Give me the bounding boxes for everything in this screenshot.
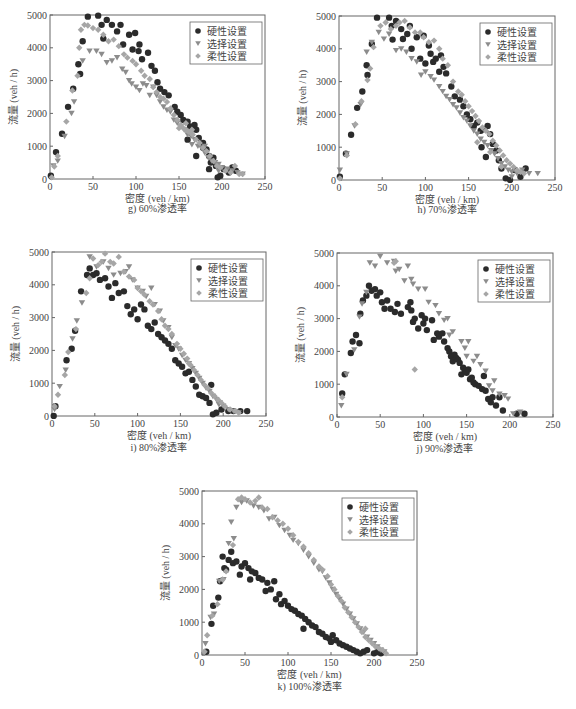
chart-caption: k) 100%渗透率 bbox=[277, 680, 341, 693]
y-tick-label: 5000 bbox=[179, 486, 199, 497]
y-axis-ticks: 010002000300040005000 bbox=[179, 486, 205, 661]
x-tick-label: 250 bbox=[410, 657, 425, 668]
series-rigid bbox=[203, 548, 384, 656]
x-tick-label: 0 bbox=[200, 657, 205, 668]
legend-label: 硬性设置 bbox=[359, 501, 399, 513]
x-tick-label: 100 bbox=[281, 657, 296, 668]
y-tick-label: 1000 bbox=[179, 617, 199, 628]
y-tick-label: 0 bbox=[194, 650, 199, 661]
x-tick-label: 200 bbox=[367, 657, 382, 668]
y-tick-label: 2000 bbox=[179, 584, 199, 595]
x-axis-label: 密度 (veh / km) bbox=[277, 668, 341, 681]
y-tick-label: 4000 bbox=[179, 518, 199, 529]
x-axis-ticks: 050100150200250 bbox=[200, 652, 425, 668]
scatter-chart-k: 050100150200250010002000300040005000密度 (… bbox=[0, 0, 576, 709]
y-axis-label: 流量 (veh / h) bbox=[159, 545, 172, 601]
y-tick-label: 3000 bbox=[179, 551, 199, 562]
legend-label: 选择设置 bbox=[359, 514, 399, 526]
legend-label: 柔性设置 bbox=[359, 526, 399, 538]
x-tick-label: 150 bbox=[324, 657, 339, 668]
x-tick-label: 50 bbox=[240, 657, 250, 668]
legend: 硬性设置选择设置柔性设置 bbox=[342, 498, 414, 540]
